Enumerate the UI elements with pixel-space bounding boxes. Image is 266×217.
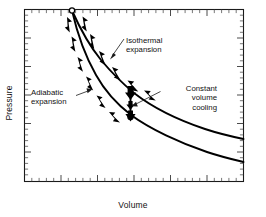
- constant-volume-label-line3: cooling: [161, 103, 217, 112]
- pv-diagram-canvas: [0, 0, 266, 217]
- isothermal-expansion-label: Isothermal expansion: [126, 36, 162, 55]
- start-state-marker: [69, 8, 74, 13]
- pv-diagram-figure: Volume Pressure Isothermal expansion Adi…: [0, 0, 266, 217]
- constant-volume-label-line1: Constant: [161, 84, 217, 93]
- constant-volume-cooling-label: Constant volume cooling: [161, 84, 217, 112]
- constant-volume-label-line2: volume: [161, 93, 217, 102]
- isothermal-label-line1: Isothermal: [126, 36, 162, 45]
- adiabatic-label-line2: expansion: [31, 97, 67, 106]
- x-axis-label: Volume: [0, 200, 266, 210]
- adiabatic-expansion-label: Adiabatic expansion: [31, 88, 67, 107]
- adiabatic-label-line1: Adiabatic: [31, 88, 67, 97]
- y-axis-label: Pressure: [4, 70, 14, 136]
- isothermal-label-line2: expansion: [126, 45, 162, 54]
